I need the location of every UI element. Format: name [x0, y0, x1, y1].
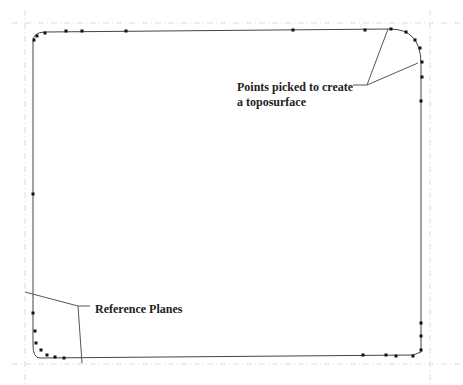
- picked-point: [420, 322, 423, 325]
- picked-point: [40, 349, 43, 352]
- picked-point: [364, 29, 367, 32]
- picked-point: [32, 193, 35, 196]
- picked-point: [54, 356, 57, 359]
- picked-point: [44, 32, 47, 35]
- points-callout-line2: a toposurface: [237, 95, 353, 110]
- picked-point: [33, 39, 36, 42]
- picked-point: [125, 30, 128, 33]
- leader-line: [367, 63, 418, 85]
- picked-point: [362, 354, 365, 357]
- picked-point: [412, 355, 415, 358]
- picked-point: [414, 39, 417, 42]
- reference-planes-callout-label: Reference Planes: [95, 302, 182, 317]
- leader-line: [367, 29, 388, 85]
- picked-point: [32, 312, 35, 315]
- picked-point: [385, 354, 388, 357]
- picked-point: [292, 29, 295, 32]
- picked-point: [81, 30, 84, 33]
- picked-point: [420, 100, 423, 103]
- picked-point: [35, 342, 38, 345]
- leader-lines-group: [25, 29, 418, 363]
- drawing-canvas: [0, 0, 463, 385]
- picked-point: [395, 355, 398, 358]
- picked-point: [46, 354, 49, 357]
- picked-point: [63, 357, 66, 360]
- picked-points-group: [32, 28, 424, 360]
- picked-point: [420, 335, 423, 338]
- picked-point: [65, 30, 68, 33]
- picked-point: [421, 61, 424, 64]
- picked-point: [34, 330, 37, 333]
- picked-point: [390, 28, 393, 31]
- picked-point: [421, 76, 424, 79]
- leader-line: [78, 306, 82, 363]
- toposurface-boundary: [33, 29, 421, 358]
- picked-point: [405, 31, 408, 34]
- picked-point: [419, 47, 422, 50]
- points-callout-label: Points picked to create a toposurface: [237, 80, 353, 110]
- picked-point: [36, 35, 39, 38]
- points-callout-line1: Points picked to create: [237, 80, 353, 95]
- picked-point: [420, 349, 423, 352]
